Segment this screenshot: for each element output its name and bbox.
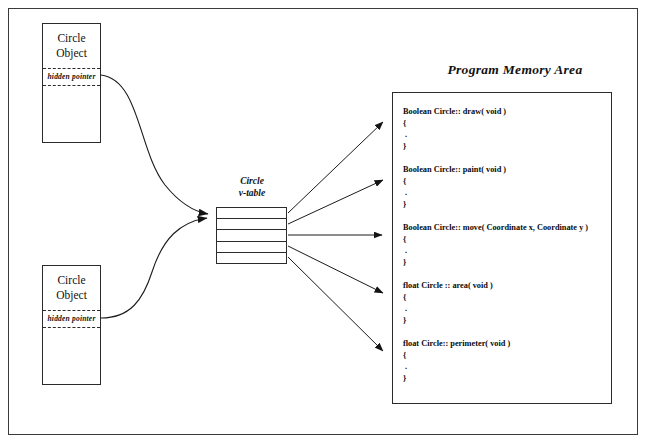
circle-object-bottom-title-line1: Circle xyxy=(43,273,100,288)
function-open-brace-paint: { xyxy=(403,176,506,188)
function-body-move: . xyxy=(403,245,588,257)
function-block-move: Boolean Circle:: move( Coordinate x, Coo… xyxy=(403,222,588,268)
circle-object-top-title-line1: Circle xyxy=(43,31,100,46)
function-close-brace-move: } xyxy=(403,257,588,269)
function-close-brace-perimeter: } xyxy=(403,373,510,385)
function-open-brace-draw: { xyxy=(403,118,506,130)
vtable-slot-4 xyxy=(217,253,286,263)
program-memory-area-title: Program Memory Area xyxy=(420,62,610,78)
function-block-perimeter: float Circle:: perimeter( void ) { . } xyxy=(403,338,510,384)
function-signature-draw: Boolean Circle:: draw( void ) xyxy=(403,106,506,118)
circle-object-top-hidden-pointer: hidden pointer xyxy=(43,69,100,85)
function-body-perimeter: . xyxy=(403,361,510,373)
vtable-label-line1: Circle xyxy=(216,176,288,188)
function-signature-area: float Circle :: area( void ) xyxy=(403,280,493,292)
function-body-area: . xyxy=(403,303,493,315)
vtable-box xyxy=(216,207,287,264)
function-block-area: float Circle :: area( void ) { . } xyxy=(403,280,493,326)
function-close-brace-paint: } xyxy=(403,199,506,211)
function-open-brace-perimeter: { xyxy=(403,350,510,362)
function-body-paint: . xyxy=(403,187,506,199)
circle-object-top-title: Circle Object xyxy=(43,24,100,68)
function-close-brace-draw: } xyxy=(403,141,506,153)
function-open-brace-area: { xyxy=(403,292,493,304)
diagram-canvas: Circle Object hidden pointer Circle Obje… xyxy=(0,0,650,446)
function-close-brace-area: } xyxy=(403,315,493,327)
vtable-label: Circle v-table xyxy=(216,176,288,199)
vtable-label-line2: v-table xyxy=(216,188,288,200)
circle-object-bottom-data-area xyxy=(43,328,100,384)
circle-object-bottom-hidden-pointer: hidden pointer xyxy=(43,311,100,327)
function-body-draw: . xyxy=(403,129,506,141)
circle-object-top-title-line2: Object xyxy=(43,46,100,61)
function-signature-move: Boolean Circle:: move( Coordinate x, Coo… xyxy=(403,222,588,234)
circle-object-bottom: Circle Object hidden pointer xyxy=(42,265,101,385)
circle-object-top: Circle Object hidden pointer xyxy=(42,23,101,143)
circle-object-bottom-title-line2: Object xyxy=(43,288,100,303)
vtable-slot-0 xyxy=(217,208,286,219)
function-signature-paint: Boolean Circle:: paint( void ) xyxy=(403,164,506,176)
function-block-draw: Boolean Circle:: draw( void ) { . } xyxy=(403,106,506,152)
vtable-slot-1 xyxy=(217,219,286,230)
vtable-slot-2 xyxy=(217,230,286,241)
circle-object-bottom-title: Circle Object xyxy=(43,266,100,310)
function-signature-perimeter: float Circle:: perimeter( void ) xyxy=(403,338,510,350)
program-memory-area-box: Boolean Circle:: draw( void ) { . } Bool… xyxy=(392,92,612,404)
function-open-brace-move: { xyxy=(403,234,588,246)
circle-object-top-data-area xyxy=(43,86,100,142)
function-block-paint: Boolean Circle:: paint( void ) { . } xyxy=(403,164,506,210)
vtable-slot-3 xyxy=(217,242,286,253)
